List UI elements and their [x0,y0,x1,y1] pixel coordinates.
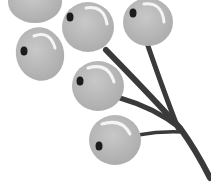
berry [89,115,141,165]
berry-dot [77,77,84,86]
berry-dot [96,142,103,151]
stem-bottom [138,132,182,135]
berry-dot [130,9,137,18]
berry-dot [21,47,28,56]
berry [8,0,62,23]
berry-dot [67,13,74,22]
berry [72,61,124,111]
berry [10,22,70,87]
berry [62,2,114,52]
berry [123,0,173,46]
berry-branch-illustration [0,0,211,193]
